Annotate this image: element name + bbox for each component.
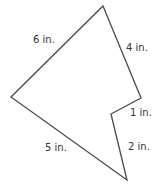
side-label-1in: 1 in. [130, 107, 152, 118]
side-label-6in: 6 in. [33, 34, 55, 45]
side-label-2in: 2 in. [128, 141, 150, 152]
side-label-4in: 4 in. [126, 42, 148, 53]
side-label-5in: 5 in. [45, 142, 67, 153]
concave-pentagon [11, 6, 141, 180]
pentagon-diagram: 6 in. 4 in. 1 in. 2 in. 5 in. [0, 0, 164, 188]
